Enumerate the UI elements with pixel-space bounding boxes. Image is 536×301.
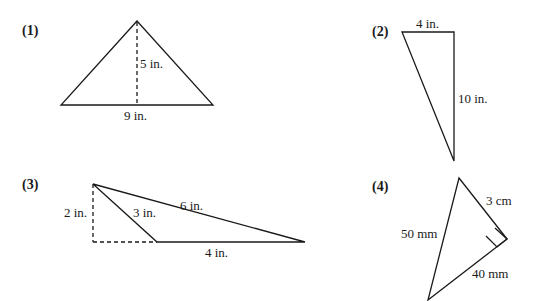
- problem-number-2: (2): [372, 25, 388, 39]
- figure-1-base-label: 9 in.: [124, 109, 147, 122]
- problem-number-3: (3): [22, 178, 38, 192]
- figure-2-side-label: 10 in.: [458, 92, 488, 105]
- figure-4-long-leg-label: 40 mm: [472, 267, 508, 280]
- figure-4-short-leg-label: 3 cm: [486, 194, 512, 207]
- right-angle-mark-icon: [486, 228, 507, 247]
- figure-1-height-label: 5 in.: [140, 57, 163, 70]
- figure-3-triangle: [93, 184, 305, 242]
- figure-2-triangle: [402, 32, 454, 161]
- figure-3-long-side-label: 6 in.: [180, 199, 203, 212]
- figure-3-inner-side-label: 3 in.: [133, 206, 156, 219]
- problem-number-1: (1): [22, 24, 38, 38]
- figures-canvas: [0, 0, 536, 301]
- figure-4-hypotenuse-label: 50 mm: [401, 227, 437, 240]
- figure-3-base-label: 4 in.: [205, 246, 228, 259]
- figure-2-top-label: 4 in.: [416, 17, 439, 30]
- figure-3-height-label: 2 in.: [64, 206, 87, 219]
- figure-1-triangle: [61, 21, 213, 105]
- problem-number-4: (4): [372, 180, 388, 194]
